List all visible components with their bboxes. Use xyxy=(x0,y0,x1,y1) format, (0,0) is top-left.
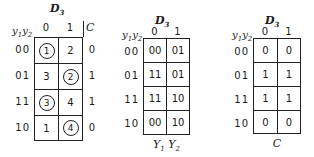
next-state-map: D3 0 1 y1y2 00 01 11 10 00 01 11 01 11 1… xyxy=(105,0,210,157)
output-value: 1 xyxy=(84,70,100,81)
cell: 3 xyxy=(35,90,59,116)
cell: 4 xyxy=(59,116,82,140)
cell: 0 xyxy=(278,39,300,63)
output-value: 0 xyxy=(84,122,100,133)
map-caption: C xyxy=(253,137,301,150)
cell-value: 3 xyxy=(43,71,49,82)
cell: 2 xyxy=(59,64,82,90)
cell: 1 xyxy=(35,38,59,64)
col-header-0: 0 xyxy=(34,22,58,33)
cell: 1 xyxy=(278,87,300,111)
row-header-01: 01 xyxy=(117,70,139,81)
output-map: D3 0 1 y1y2 00 01 11 10 0 0 1 1 1 1 0 0 … xyxy=(205,0,314,157)
cell: 0 xyxy=(254,39,278,63)
cell-value: 4 xyxy=(67,97,73,108)
row-header-00: 00 xyxy=(8,44,30,55)
map-title: D3 xyxy=(50,2,64,17)
circled-stable-state: 1 xyxy=(39,43,55,59)
cell: 2 xyxy=(59,38,82,64)
row-header-01: 01 xyxy=(8,70,30,81)
cell-value: 1 xyxy=(43,123,49,134)
row-header-11: 11 xyxy=(227,94,249,105)
col-header-1: 1 xyxy=(277,26,300,37)
cell: 3 xyxy=(35,64,59,90)
cell-value: 2 xyxy=(67,45,73,56)
cell: 00 xyxy=(144,111,167,134)
output-value: 1 xyxy=(84,96,100,107)
row-header-00: 00 xyxy=(227,46,249,57)
row-header-11: 11 xyxy=(8,96,30,107)
row-header-01: 01 xyxy=(227,70,249,81)
cell: 11 xyxy=(144,63,167,87)
cell: 1 xyxy=(254,63,278,87)
cell: 01 xyxy=(167,39,189,63)
col-header-1: 1 xyxy=(166,26,189,37)
circled-stable-state: 2 xyxy=(63,69,79,85)
cell: 1 xyxy=(278,63,300,87)
cell: 10 xyxy=(167,111,189,134)
karnaugh-grid: 1 2 3 2 3 4 1 4 xyxy=(34,37,83,141)
col-header-1: 1 xyxy=(58,22,82,33)
cell: 1 xyxy=(254,87,278,111)
karnaugh-grid: 0 0 1 1 1 1 0 0 xyxy=(253,38,301,134)
cell: 0 xyxy=(254,111,278,133)
col-header-0: 0 xyxy=(253,26,277,37)
flow-table-map: D3 0 1 y1y2 00 01 11 10 1 2 3 2 3 4 1 4 … xyxy=(0,0,110,157)
circled-stable-state: 4 xyxy=(63,120,79,136)
row-header-10: 10 xyxy=(227,118,249,129)
row-header-11: 11 xyxy=(117,94,139,105)
corner-label: y1y2 xyxy=(12,26,32,40)
cell: 00 xyxy=(144,39,167,63)
cell: 11 xyxy=(144,87,167,111)
row-header-10: 10 xyxy=(117,118,139,129)
corner-label: y1y2 xyxy=(232,30,252,44)
corner-label: y1y2 xyxy=(122,30,142,44)
cell: 10 xyxy=(167,87,189,111)
karnaugh-grid: 00 01 11 01 11 10 00 10 xyxy=(143,38,190,135)
col-header-0: 0 xyxy=(143,26,166,37)
cell: 1 xyxy=(35,116,59,140)
circled-stable-state: 3 xyxy=(39,95,55,111)
output-divider xyxy=(83,21,84,37)
row-header-00: 00 xyxy=(117,46,139,57)
row-header-10: 10 xyxy=(8,122,30,133)
output-value: 0 xyxy=(84,44,100,55)
cell: 01 xyxy=(167,63,189,87)
cell: 4 xyxy=(59,90,82,116)
output-header: C xyxy=(86,21,94,34)
map-caption: Y1 Y2 xyxy=(143,138,190,153)
cell: 0 xyxy=(278,111,300,133)
